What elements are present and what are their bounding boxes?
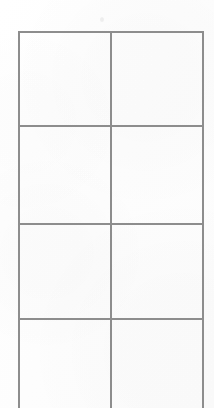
table-cell-text: [111, 126, 203, 223]
table-column-divider-1: [110, 31, 112, 408]
table-cell[interactable]: [19, 319, 110, 408]
table-right-border: [202, 31, 204, 408]
table-cell[interactable]: [111, 319, 203, 408]
table-cell-text: [111, 32, 203, 125]
table-cell-text: [111, 224, 203, 318]
table-cell-text: [19, 126, 110, 223]
table-cell-text: [19, 224, 110, 318]
blank-ruled-table: [0, 0, 214, 408]
scanned-page: [0, 0, 214, 408]
table-cell-text: [19, 32, 110, 125]
table-cell[interactable]: [19, 126, 110, 223]
table-cell-text: [111, 319, 203, 408]
table-left-border: [18, 31, 20, 408]
table-cell-text: [19, 319, 110, 408]
table-cell[interactable]: [19, 224, 110, 318]
table-cell[interactable]: [111, 32, 203, 125]
table-cell[interactable]: [111, 224, 203, 318]
table-cell[interactable]: [19, 32, 110, 125]
table-cell[interactable]: [111, 126, 203, 223]
